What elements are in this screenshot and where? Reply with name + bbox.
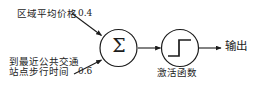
step-function-icon <box>168 40 191 56</box>
weight-1-label: 0.4 <box>78 9 92 18</box>
summation-sigma-symbol: Σ <box>106 36 132 55</box>
diagram-canvas: Σ 区域平均价格 到最近公共交通 站点步行时间 0.4 0.6 激活函数 输出 <box>0 0 260 88</box>
input-feature-1-label: 区域平均价格 <box>17 9 77 19</box>
weight-2-label: 0.6 <box>78 67 92 76</box>
activation-function-label: 激活函数 <box>157 68 197 78</box>
activation-node-circle <box>162 30 199 67</box>
input-feature-2-label-line-2: 站点步行时间 <box>9 67 79 77</box>
output-label: 输出 <box>225 40 247 52</box>
input-feature-2-label: 到最近公共交通 站点步行时间 <box>9 57 79 77</box>
